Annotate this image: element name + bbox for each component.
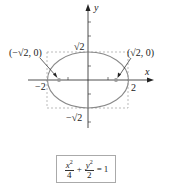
focus-right-point xyxy=(114,78,118,82)
plus-sign: + xyxy=(77,164,82,174)
focus-left-point xyxy=(57,78,61,82)
fraction-x: x2 4 xyxy=(65,158,74,180)
x-axis-label: x xyxy=(144,66,150,77)
equals-sign: = xyxy=(97,164,102,174)
focus-left-label: (−√2, 0) xyxy=(9,47,42,59)
tick-label-x-neg: −2 xyxy=(35,81,46,92)
y-axis-label: y xyxy=(93,2,99,13)
focus-right-label: (√2, 0) xyxy=(127,47,154,59)
fraction-y: y2 2 xyxy=(85,158,94,180)
equation-rhs: 1 xyxy=(104,164,109,174)
tick-label-y-neg: −√2 xyxy=(66,112,82,123)
x-axis-arrow-icon xyxy=(147,78,154,83)
equation-box: x2 4 + y2 2 = 1 xyxy=(56,155,116,183)
tick-label-x-pos: 2 xyxy=(131,82,136,93)
tick-label-y-pos: √2 xyxy=(74,41,85,52)
y-axis-arrow-icon xyxy=(86,4,91,11)
